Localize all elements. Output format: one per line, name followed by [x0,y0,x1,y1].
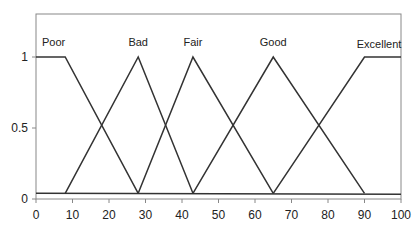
zero-membership-line [36,193,401,194]
set-label-fair: Fair [183,36,202,48]
x-tick-label: 0 [33,208,40,222]
plot-area-border [36,14,401,199]
x-tick-label: 10 [66,208,80,222]
x-axis: 0102030405060708090100 [33,199,412,222]
set-label-bad: Bad [128,36,148,48]
x-tick-label: 70 [285,208,299,222]
x-tick-label: 100 [391,208,411,222]
y-tick-label: 0.5 [11,121,28,135]
y-tick-label: 1 [21,50,28,64]
x-tick-label: 40 [175,208,189,222]
x-tick-label: 30 [139,208,153,222]
y-axis: 00.51 [11,50,36,206]
x-tick-label: 20 [102,208,116,222]
x-tick-label: 90 [358,208,372,222]
fuzzy-membership-chart: 00.51 0102030405060708090100 PoorBadFair… [0,0,418,231]
x-tick-label: 80 [321,208,335,222]
x-tick-label: 50 [212,208,226,222]
set-label-good: Good [260,36,287,48]
set-label-poor: Poor [42,36,66,48]
x-tick-label: 60 [248,208,262,222]
y-tick-label: 0 [21,192,28,206]
set-label-excellent: Excellent [357,38,402,50]
